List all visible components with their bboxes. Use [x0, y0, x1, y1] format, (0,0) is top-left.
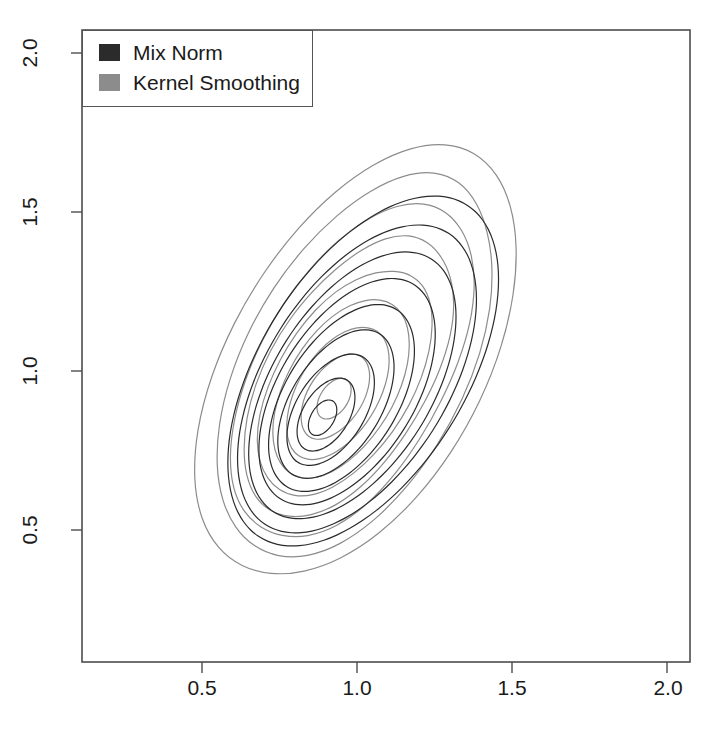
- legend-entry-kernel-smoothing: Kernel Smoothing: [99, 69, 300, 95]
- y-tick-label-2: 1.5: [18, 197, 42, 226]
- contour-line: [259, 279, 435, 505]
- legend-label-kernel-smoothing: Kernel Smoothing: [133, 72, 300, 93]
- contour-line: [230, 204, 474, 537]
- x-tick-label-3: 2.0: [653, 676, 682, 700]
- legend-label-mix-norm: Mix Norm: [133, 42, 223, 63]
- axis-frame: [71, 30, 690, 673]
- contour-line: [228, 196, 499, 546]
- y-tick-label-0: 0.5: [18, 515, 42, 544]
- x-tick-label-0: 0.5: [187, 676, 216, 700]
- contour-line: [238, 225, 477, 533]
- y-tick-label-1: 1.0: [18, 356, 42, 385]
- legend: Mix Norm Kernel Smoothing: [82, 30, 313, 107]
- legend-entry-mix-norm: Mix Norm: [99, 39, 223, 65]
- x-tick-label-2: 1.5: [497, 676, 526, 700]
- plot-canvas: [0, 0, 717, 737]
- legend-swatch-mix-norm: [99, 44, 120, 61]
- contour-plot-figure: 0.5 1.0 1.5 2.0 0.5 1.0 1.5 2.0 Mix Norm…: [0, 0, 717, 737]
- contour-line: [297, 378, 355, 451]
- contour-group-kernel-smoothing: [195, 145, 517, 574]
- contour-group-mix-norm: [228, 196, 499, 546]
- y-tick-label-3: 2.0: [18, 38, 42, 67]
- legend-swatch-kernel-smoothing: [99, 74, 120, 91]
- x-tick-label-1: 1.0: [342, 676, 371, 700]
- plot-border: [82, 30, 690, 662]
- contour-line: [301, 354, 370, 439]
